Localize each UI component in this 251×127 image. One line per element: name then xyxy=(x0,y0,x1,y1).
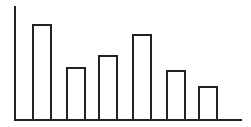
bar-2 xyxy=(67,68,85,120)
bars-group xyxy=(33,25,217,120)
bar-chart xyxy=(0,0,251,127)
bar-6 xyxy=(199,87,217,120)
bar-5 xyxy=(167,71,185,120)
bar-1 xyxy=(33,25,51,120)
bar-3 xyxy=(99,56,117,120)
bar-4 xyxy=(133,35,151,120)
